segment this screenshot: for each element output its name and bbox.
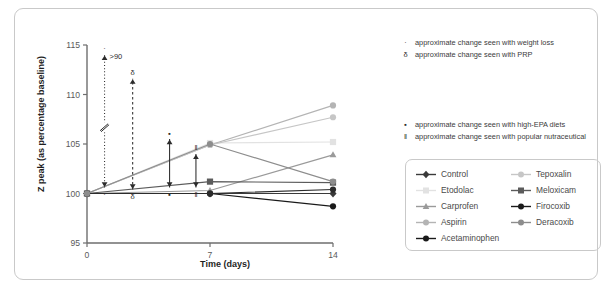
y-tick-label: 105	[66, 139, 81, 149]
legend-item-acetaminophen[interactable]: Acetaminophen	[415, 233, 510, 244]
annotation-list-middle: ▪approximate change seen with high-EPA d…	[401, 119, 606, 143]
annotation-arrow-symbol: ‖	[194, 143, 197, 152]
chart-plot-area: 951001051101150714··>90δδ▪▪‖‖ Time (days…	[15, 9, 395, 281]
annotation-middle-row: ▪approximate change seen with high-EPA d…	[401, 119, 606, 131]
legend-marker-icon	[415, 185, 437, 196]
annotation-symbol-icon: ‖	[401, 131, 410, 143]
data-point	[207, 179, 213, 185]
annotation-middle-row: ‖approximate change seen with popular nu…	[401, 131, 606, 143]
annotation-text: approximate change seen with weight loss	[415, 37, 554, 49]
legend-item-label: Firocoxib	[536, 201, 570, 211]
annotation-symbol-icon: ▪	[401, 119, 410, 131]
y-axis-title: Z peak (as percentage baseline)	[36, 34, 46, 214]
data-point	[330, 114, 336, 120]
annotation-list-top: ·approximate change seen with weight los…	[401, 37, 601, 61]
chart-legend: ControlTepoxalinEtodolacMeloxicamCarprof…	[405, 159, 601, 251]
annotation-text: approximate change seen with PRP	[415, 49, 533, 61]
x-tick-label: 0	[85, 250, 90, 260]
data-point	[330, 179, 336, 185]
legend-item-etodolac[interactable]: Etodolac	[415, 185, 510, 196]
data-point	[330, 102, 336, 108]
annotation-top-row: ·approximate change seen with weight los…	[401, 37, 601, 49]
legend-marker-icon	[510, 201, 532, 212]
annotation-arrow-2: ▪▪	[167, 129, 173, 200]
annotation-arrow-symbol: ‖	[194, 190, 197, 199]
legend-item-label: Etodolac	[441, 185, 474, 195]
legend-marker-icon	[415, 169, 437, 180]
legend-marker-icon	[415, 217, 437, 228]
annotation-arrow-symbol: ▪	[168, 129, 171, 138]
annotation-text: approximate change seen with high-EPA di…	[415, 119, 565, 131]
annotation-arrow-symbol: ·	[103, 190, 106, 199]
data-point	[207, 141, 213, 147]
annotation-arrow-symbol: δ	[131, 192, 135, 201]
legend-item-control[interactable]: Control	[415, 169, 510, 180]
legend-item-label: Meloxicam	[536, 185, 576, 195]
legend-item-tepoxalin[interactable]: Tepoxalin	[510, 169, 605, 180]
legend-item-deracoxib[interactable]: Deracoxib	[510, 217, 605, 228]
x-tick-label: 14	[328, 250, 338, 260]
annotation-arrow-0: ··>90	[100, 44, 122, 199]
series-carprofen	[84, 151, 337, 196]
y-tick-label: 110	[66, 90, 80, 100]
annotation-top-row: δapproximate change seen with PRP	[401, 49, 601, 61]
annotation-arrow-1: δδ	[130, 68, 136, 201]
chart-svg: 951001051101150714··>90δδ▪▪‖‖	[15, 9, 395, 281]
annotation-arrow-symbol: ·	[103, 44, 106, 53]
annotation-arrow-symbol: ▪	[168, 190, 171, 199]
data-point	[84, 190, 90, 196]
annotation-symbol-icon: δ	[401, 49, 410, 61]
annotation-symbol-icon: ·	[401, 37, 410, 49]
data-point	[330, 186, 336, 192]
legend-item-meloxicam[interactable]: Meloxicam	[510, 185, 605, 196]
legend-marker-icon	[415, 233, 437, 244]
legend-marker-icon	[510, 169, 532, 180]
legend-item-label: Carprofen	[441, 201, 478, 211]
annotation-text: approximate change seen with popular nut…	[415, 131, 586, 143]
legend-marker-icon	[510, 185, 532, 196]
legend-marker-icon	[510, 217, 532, 228]
legend-marker-icon	[415, 201, 437, 212]
figure-panel: 951001051101150714··>90δδ▪▪‖‖ Time (days…	[14, 8, 598, 280]
legend-item-carprofen[interactable]: Carprofen	[415, 201, 510, 212]
annotation-arrow-label: >90	[110, 52, 123, 61]
legend-item-label: Control	[441, 169, 468, 179]
legend-item-firocoxib[interactable]: Firocoxib	[510, 201, 605, 212]
y-tick-label: 95	[70, 238, 80, 248]
legend-grid: ControlTepoxalinEtodolacMeloxicamCarprof…	[415, 166, 593, 246]
x-axis-title: Time (days)	[165, 259, 285, 269]
legend-item-label: Acetaminophen	[441, 233, 499, 243]
legend-item-aspirin[interactable]: Aspirin	[415, 217, 510, 228]
data-point	[207, 190, 213, 196]
annotation-arrow-symbol: δ	[131, 68, 135, 77]
legend-item-label: Deracoxib	[536, 217, 574, 227]
legend-item-label: Aspirin	[441, 217, 467, 227]
data-point	[330, 151, 337, 157]
y-tick-label: 115	[66, 40, 80, 50]
data-point	[330, 203, 336, 209]
data-point	[330, 139, 336, 145]
legend-item-label: Tepoxalin	[536, 169, 571, 179]
y-tick-label: 100	[66, 189, 81, 199]
